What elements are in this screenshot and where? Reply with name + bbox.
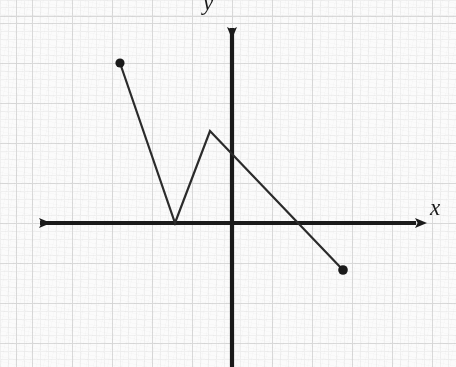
y-axis-label: y [203, 0, 213, 14]
x-axis-label: x [430, 196, 440, 219]
left-endpoint-dot [115, 58, 124, 67]
right-endpoint-dot [338, 265, 348, 275]
coordinate-plane [0, 0, 456, 367]
graph-figure: x y [0, 0, 456, 367]
